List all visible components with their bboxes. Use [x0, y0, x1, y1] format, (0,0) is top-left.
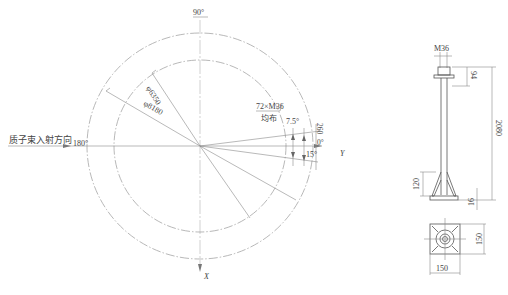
angle-offset-label: 260 [315, 123, 324, 135]
y-axis-label: Y [340, 149, 346, 158]
angle-line-upper [200, 131, 320, 146]
plan-view: 90° 质子束入射方向 180° φ6350 φ8180 72×M36 均布 7… [8, 8, 346, 281]
washer [434, 75, 454, 78]
thread-label: M36 [434, 44, 449, 53]
gusset-diag [452, 246, 458, 252]
radial-line-lower-1 [200, 146, 250, 218]
plate-depth-label: 150 [475, 233, 484, 245]
nut [438, 67, 450, 75]
x-axis-label: X [203, 272, 210, 281]
angle-line-lower [200, 146, 318, 162]
gusset-right [447, 172, 456, 196]
angle-large-label: 15° [306, 150, 317, 159]
outer-leader-tick [106, 88, 110, 91]
base-plate-plan: 150 150 [424, 218, 486, 275]
radial-line-lower-2 [200, 146, 296, 200]
arrow-icon [291, 134, 295, 140]
angle-small-label: 7.5° [286, 117, 299, 126]
total-length-label: 2080 [494, 120, 503, 136]
angle-right-label: 0° [317, 138, 324, 147]
angle-top-label: 90° [193, 8, 204, 17]
gusset-left [432, 172, 441, 196]
nut-height-label: 94 [469, 71, 478, 79]
plate-thickness-label: 16 [467, 198, 476, 206]
foundation-bolt-drawing: 90° 质子束入射方向 180° φ6350 φ8180 72×M36 均布 7… [0, 0, 508, 295]
bolt-elevation: M36 94 2080 120 16 [412, 44, 503, 210]
arrow-icon [291, 152, 295, 158]
bolt-spec-label: 72×M36 [256, 102, 284, 111]
inner-leader-tick [152, 70, 156, 73]
x-axis-arrow-icon [198, 264, 202, 272]
gusset-diag [432, 246, 438, 252]
angle-left-label: 180° [73, 139, 88, 148]
base-height-label: 120 [412, 178, 421, 190]
gusset-diag [432, 226, 438, 232]
gusset-diag [452, 226, 458, 232]
bolt-distribution-label: 均布 [261, 113, 277, 123]
arrow-icon [302, 135, 306, 141]
beam-direction-label: 质子束入射方向 [9, 134, 72, 145]
base-plate [430, 196, 458, 200]
plate-width-label: 150 [436, 264, 448, 273]
